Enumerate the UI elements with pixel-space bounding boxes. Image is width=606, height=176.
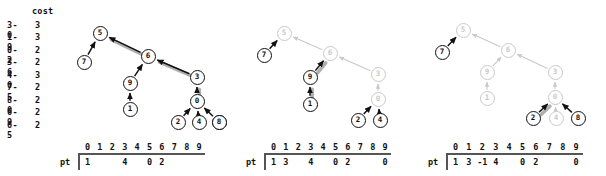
tree-node-4[interactable]: 4	[549, 111, 564, 126]
tree-node-2[interactable]: 2	[171, 115, 186, 130]
tree-node-5[interactable]: 5	[277, 26, 292, 41]
tree-node-1[interactable]: 1	[303, 97, 318, 112]
tree-node-1[interactable]: 1	[480, 91, 495, 106]
pt-grid: 01132-134450627890	[446, 140, 584, 174]
pt-index: 7	[543, 142, 555, 152]
tree-node-9[interactable]: 9	[123, 76, 138, 91]
tree-node-4[interactable]: 4	[192, 115, 207, 130]
tree-node-3[interactable]: 3	[548, 65, 563, 80]
pt-value: -1	[473, 157, 491, 167]
figure-root: cost 3-031-930-223-624-037-528-026-926-5…	[0, 0, 606, 176]
tree-node-7[interactable]: 7	[77, 55, 92, 70]
pt-index: 5	[517, 142, 529, 152]
tree-edge	[493, 57, 501, 66]
tree-node-3[interactable]: 3	[371, 67, 386, 82]
tree-node-0[interactable]: 0	[548, 90, 563, 105]
tree-edge	[562, 104, 571, 113]
pt-index: 3	[490, 142, 502, 152]
pt-index: 6	[530, 142, 542, 152]
edge-highlight	[541, 106, 550, 114]
tree-node-2[interactable]: 2	[351, 113, 366, 128]
pt-label: pt	[428, 157, 438, 167]
tree-node-8[interactable]: 8	[571, 111, 586, 126]
tree-node-3[interactable]: 3	[190, 70, 205, 85]
tree-node-0[interactable]: 0	[190, 94, 205, 109]
tree-node-6[interactable]: 6	[323, 46, 338, 61]
pt-index: 4	[503, 142, 515, 152]
pt-index: 2	[476, 142, 488, 152]
tree-node-9[interactable]: 9	[480, 65, 495, 80]
tree-node-6[interactable]: 6	[141, 49, 156, 64]
pt-value: 1	[450, 157, 462, 167]
pt-index: 0	[450, 142, 462, 152]
tree-edges	[0, 0, 606, 140]
pt-value: 4	[490, 157, 502, 167]
pt-value: 0	[570, 157, 582, 167]
tree-edge	[448, 37, 456, 46]
tree-node-6[interactable]: 6	[501, 43, 516, 58]
tree-node-4[interactable]: 4	[373, 113, 388, 128]
tree-node-7[interactable]: 7	[257, 48, 272, 63]
tree-node-5[interactable]: 5	[93, 26, 108, 41]
pt-index: 8	[557, 142, 569, 152]
pt-index: 1	[463, 142, 475, 152]
panel-3: 5769130248pt01132-134450627890	[0, 0, 606, 176]
pt-vertical-rule	[446, 154, 448, 170]
pt-value: 0	[517, 157, 529, 167]
tree-node-0[interactable]: 0	[371, 92, 386, 107]
tree-node-2[interactable]: 2	[526, 111, 541, 126]
tree-node-5[interactable]: 5	[456, 23, 471, 38]
pt-value: 2	[530, 157, 542, 167]
pt-array: pt01132-134450627890	[428, 140, 593, 174]
tree-node-9[interactable]: 9	[303, 70, 318, 85]
tree-node-7[interactable]: 7	[435, 45, 450, 60]
tree-node-8[interactable]: 8	[212, 115, 227, 130]
tree-node-1[interactable]: 1	[123, 102, 138, 117]
tree-edge	[472, 34, 500, 47]
tree-edge	[517, 54, 547, 68]
pt-index: 9	[570, 142, 582, 152]
pt-horizontal-rule	[446, 153, 583, 155]
